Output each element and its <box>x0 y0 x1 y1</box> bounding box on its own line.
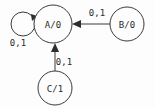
transition-label-c-to-a: 0,1 <box>56 57 72 67</box>
state-node-c[interactable]: C/1 <box>38 71 72 105</box>
state-a-label: A/0 <box>45 20 61 30</box>
transition-label-a-self: 0,1 <box>10 38 26 48</box>
state-node-b[interactable]: B/0 <box>110 7 144 41</box>
transition-label-b-to-a: 0,1 <box>89 8 105 18</box>
state-c-label: C/1 <box>47 84 63 94</box>
state-node-a[interactable]: A/0 <box>34 5 72 43</box>
state-b-label: B/0 <box>119 20 135 30</box>
state-machine-diagram: A/0 B/0 C/1 0,1 0,1 0,1 <box>0 0 155 109</box>
transition-a-self-loop <box>11 12 37 36</box>
transition-b-to-a <box>72 20 110 28</box>
state-diagram-canvas: A/0 B/0 C/1 0,1 0,1 0,1 <box>0 0 155 109</box>
edge-b-to-a-arrowhead <box>72 20 81 28</box>
edge-c-to-a-arrowhead <box>51 43 59 52</box>
